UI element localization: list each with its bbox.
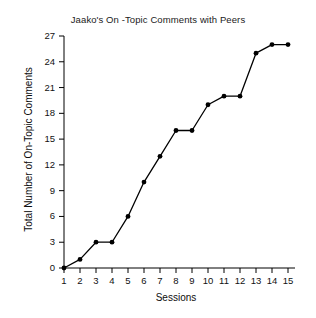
y-tick-label: 0	[33, 263, 55, 273]
y-tick-label: 24	[33, 57, 55, 67]
x-tick-label: 2	[72, 276, 88, 286]
x-tick-label: 6	[136, 276, 152, 286]
data-point	[286, 42, 291, 47]
data-point-markers	[62, 42, 291, 270]
x-tick-label: 3	[88, 276, 104, 286]
x-tick-label: 8	[168, 276, 184, 286]
x-tick-label: 5	[120, 276, 136, 286]
x-axis-ticks	[64, 268, 288, 273]
data-point	[158, 154, 163, 159]
x-tick-label: 15	[280, 276, 296, 286]
chart-figure: Jaako's On -Topic Comments with Peers To…	[0, 0, 316, 318]
x-tick-label: 14	[264, 276, 280, 286]
y-axis-ticks	[59, 36, 64, 268]
x-tick-label: 1	[56, 276, 72, 286]
y-tick-label: 6	[33, 211, 55, 221]
data-point	[254, 51, 259, 56]
axes	[64, 36, 295, 268]
y-tick-label: 27	[33, 31, 55, 41]
data-point	[78, 257, 83, 262]
y-tick-label: 9	[33, 186, 55, 196]
x-tick-label: 11	[216, 276, 232, 286]
data-point	[94, 240, 99, 245]
y-tick-label: 3	[33, 237, 55, 247]
y-tick-label: 15	[33, 134, 55, 144]
x-tick-label: 9	[184, 276, 200, 286]
data-point	[126, 214, 131, 219]
x-tick-label: 12	[232, 276, 248, 286]
data-point	[110, 240, 115, 245]
data-point	[190, 128, 195, 133]
data-point	[238, 94, 243, 99]
x-tick-label: 13	[248, 276, 264, 286]
x-tick-label: 10	[200, 276, 216, 286]
data-point	[142, 180, 147, 185]
data-point	[270, 42, 275, 47]
data-point	[206, 102, 211, 107]
x-tick-label: 4	[104, 276, 120, 286]
y-tick-label: 21	[33, 83, 55, 93]
y-tick-label: 18	[33, 108, 55, 118]
data-point	[222, 94, 227, 99]
y-tick-label: 12	[33, 160, 55, 170]
x-tick-label: 7	[152, 276, 168, 286]
data-point	[174, 128, 179, 133]
data-series-line	[64, 45, 288, 268]
data-point	[62, 266, 67, 271]
